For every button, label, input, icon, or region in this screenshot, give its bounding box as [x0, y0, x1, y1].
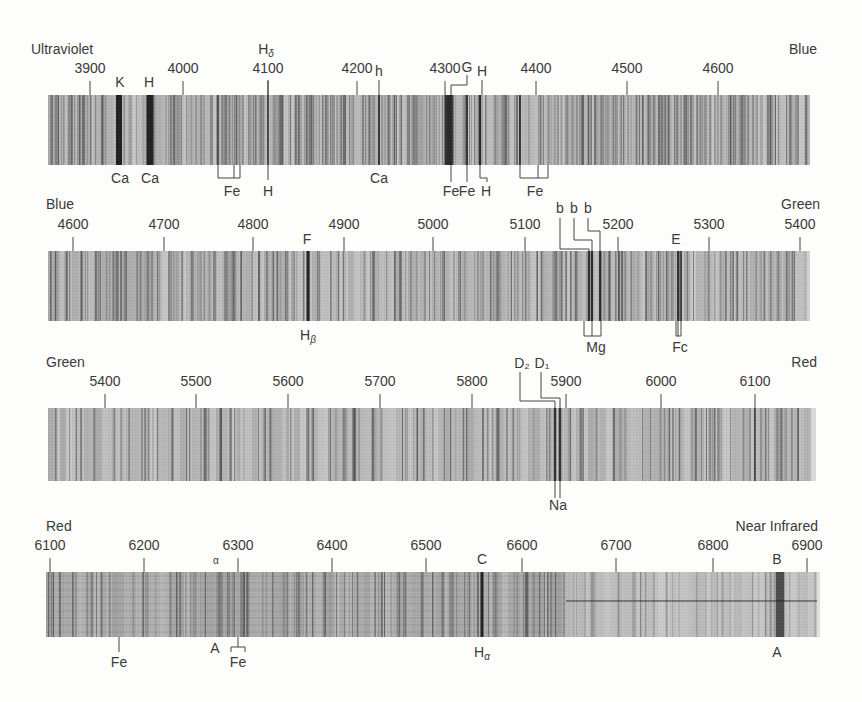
- spectrum-strip: [48, 95, 810, 165]
- line-labels-bottom: Na: [549, 497, 567, 513]
- tick-5800: 5800: [456, 373, 487, 408]
- tick-5500: 5500: [180, 373, 211, 408]
- line-labels-top: αCB: [213, 551, 782, 567]
- spectrum-band-2: Blue Green 46004700480049005000510052005…: [46, 196, 820, 355]
- line-labels-bottom: FeAFeHαA: [111, 640, 783, 670]
- tick-5000: 5000: [417, 216, 448, 251]
- solar-spectrum-diagram: Ultraviolet Blue 39004000410042004300440…: [0, 0, 862, 702]
- line-label: Fe: [230, 654, 247, 670]
- tick-6000: 6000: [645, 373, 676, 408]
- tick-label: 6700: [600, 537, 631, 553]
- tick-label: 6300: [222, 537, 253, 553]
- connector-leaders: [119, 637, 245, 652]
- tick-4300: 4300: [429, 60, 460, 95]
- tick-label: 4600: [702, 60, 733, 76]
- line-label: H: [263, 183, 273, 199]
- line-label: b: [570, 200, 578, 216]
- line-label: Ca: [370, 170, 388, 186]
- tick-label: 4500: [611, 60, 642, 76]
- tick-label: 4000: [167, 60, 198, 76]
- line-label: Ca: [111, 170, 129, 186]
- tick-4400: 4400: [520, 60, 551, 95]
- line-label: Ca: [141, 170, 159, 186]
- line-label: Fe: [443, 183, 460, 199]
- tick-label: 5000: [417, 216, 448, 232]
- tick-label: 6400: [316, 537, 347, 553]
- tick-6900: 6900: [791, 537, 822, 572]
- tick-4600: 4600: [702, 60, 733, 95]
- line-label: G: [462, 59, 473, 75]
- line-label: Fc: [672, 339, 688, 355]
- spectrum-strip: [48, 408, 816, 481]
- tick-label: 5600: [272, 373, 303, 389]
- tick-5300: 5300: [693, 216, 724, 251]
- tick-5600: 5600: [272, 373, 303, 408]
- line-label: B: [772, 551, 781, 567]
- region-label-left: Red: [46, 518, 72, 534]
- tick-6600: 6600: [506, 537, 537, 572]
- spectrum-band-1: Ultraviolet Blue 39004000410042004300440…: [31, 41, 817, 199]
- tick-label: 6800: [697, 537, 728, 553]
- tick-label: 4100: [252, 60, 283, 76]
- wavelength-ticks: 54005500560057005800590060006100: [89, 373, 770, 408]
- line-label: C: [477, 551, 487, 567]
- region-label-right: Blue: [789, 41, 817, 57]
- tick-label: 5400: [784, 216, 815, 232]
- line-label: H: [477, 63, 487, 79]
- tick-label: 6500: [410, 537, 441, 553]
- tick-4900: 4900: [328, 216, 359, 251]
- wavelength-ticks: 610062006300640065006600670068006900: [34, 537, 822, 572]
- tick-4600: 4600: [57, 216, 88, 251]
- tick-label: 5200: [602, 216, 633, 232]
- line-label: Fe: [459, 183, 476, 199]
- tick-label: 6200: [128, 537, 159, 553]
- line-label: K: [115, 74, 125, 90]
- line-label: Hβ: [300, 327, 316, 345]
- line-label: E: [671, 231, 680, 247]
- line-labels-bottom: HβMgFc: [300, 327, 688, 355]
- line-label: Mg: [586, 339, 605, 355]
- tick-5700: 5700: [364, 373, 395, 408]
- line-label: Fe: [224, 183, 241, 199]
- tick-4000: 4000: [167, 60, 198, 95]
- spectrum-band-3: Green Red 540055005600570058005900600061…: [46, 354, 817, 513]
- tick-label: 6000: [645, 373, 676, 389]
- tick-label: 5700: [364, 373, 395, 389]
- line-label: h: [375, 63, 383, 79]
- region-label-left: Green: [46, 354, 85, 370]
- region-label-right: Green: [781, 196, 820, 212]
- tick-label: 6900: [791, 537, 822, 553]
- tick-label: 6100: [34, 537, 65, 553]
- tick-6100: 6100: [34, 537, 65, 572]
- tick-6700: 6700: [600, 537, 631, 572]
- tick-4500: 4500: [611, 60, 642, 95]
- tick-label: 5500: [180, 373, 211, 389]
- tick-5400: 5400: [89, 373, 120, 408]
- line-label: Na: [549, 497, 567, 513]
- tick-4200: 4200: [341, 60, 372, 95]
- line-label: b: [584, 200, 592, 216]
- region-label-right: Near Infrared: [736, 518, 818, 534]
- tick-6100: 6100: [739, 373, 770, 408]
- tick-label: 5300: [693, 216, 724, 232]
- spectrum-strip: [48, 251, 810, 321]
- wavelength-ticks: 39004000410042004300440045004600: [74, 60, 733, 95]
- region-label-left: Ultraviolet: [31, 41, 93, 57]
- tick-4700: 4700: [148, 216, 179, 251]
- line-label: H: [481, 183, 491, 199]
- tick-label: 4600: [57, 216, 88, 232]
- region-label-right: Red: [791, 354, 817, 370]
- line-label: α: [213, 555, 219, 566]
- tick-label: 6600: [506, 537, 537, 553]
- tick-6400: 6400: [316, 537, 347, 572]
- line-label: Fe: [111, 654, 128, 670]
- tick-label: 4200: [341, 60, 372, 76]
- line-label: A: [772, 644, 782, 660]
- spectrum-strip: [46, 572, 820, 637]
- tick-6300: 6300: [222, 537, 253, 572]
- tick-label: 4900: [328, 216, 359, 232]
- tick-label: 5400: [89, 373, 120, 389]
- tick-6200: 6200: [128, 537, 159, 572]
- line-labels-bottom: CaCaFeHCaFeFeHFe: [111, 170, 543, 199]
- tick-label: 3900: [74, 60, 105, 76]
